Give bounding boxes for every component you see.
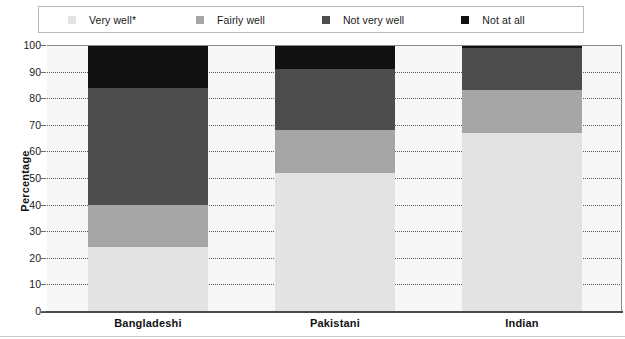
square-swatch-icon (196, 16, 204, 24)
y-tick-label: 10 (7, 278, 41, 290)
chart-container: 0102030405060708090100 Percentage Bangla… (0, 0, 625, 339)
legend-item[interactable]: Not at all (461, 7, 524, 32)
square-swatch-icon (68, 16, 76, 24)
bar-segment[interactable] (275, 45, 395, 69)
bar-segment[interactable] (462, 45, 582, 48)
y-tick-mark (41, 231, 46, 232)
legend-item[interactable]: Fairly well (196, 7, 265, 32)
chart-legend: Very well*Fairly wellNot very wellNot at… (38, 6, 584, 33)
x-axis-category-label: Indian (442, 317, 602, 329)
square-swatch-icon (461, 16, 469, 24)
y-tick-mark (41, 258, 46, 259)
x-axis-line (41, 311, 623, 313)
x-axis-category-label: Bangladeshi (68, 317, 228, 329)
legend-item-label: Not at all (482, 14, 524, 26)
y-tick-mark (41, 151, 46, 152)
y-tick-mark (41, 284, 46, 285)
y-tick-label: 100 (7, 39, 41, 51)
bar-segment[interactable] (275, 130, 395, 173)
y-tick-label: 0 (7, 305, 41, 317)
legend-item-label: Not very well (343, 14, 404, 26)
y-tick-label: 90 (7, 66, 41, 78)
bar-segment[interactable] (462, 48, 582, 91)
stacked-bar[interactable] (275, 45, 395, 311)
y-tick-label: 20 (7, 252, 41, 264)
stacked-bar[interactable] (88, 45, 208, 311)
bar-segment[interactable] (88, 205, 208, 248)
x-axis-category-label: Pakistani (255, 317, 415, 329)
bar-segment[interactable] (88, 88, 208, 205)
y-tick-mark (41, 98, 46, 99)
y-tick-mark (41, 178, 46, 179)
bar-segment[interactable] (88, 45, 208, 88)
y-axis-title: Percentage (19, 126, 31, 236)
legend-item[interactable]: Very well* (68, 7, 136, 32)
y-tick-label: 80 (7, 92, 41, 104)
bar-segment[interactable] (275, 173, 395, 311)
bar-segment[interactable] (88, 247, 208, 311)
square-swatch-icon (322, 16, 330, 24)
bar-segment[interactable] (275, 69, 395, 130)
legend-item-label: Fairly well (217, 14, 265, 26)
bottom-rule (0, 336, 625, 337)
y-tick-mark (41, 125, 46, 126)
y-tick-mark (41, 72, 46, 73)
stacked-bar[interactable] (462, 45, 582, 311)
y-tick-mark (41, 45, 46, 46)
y-tick-mark (41, 205, 46, 206)
legend-item[interactable]: Not very well (322, 7, 404, 32)
y-tick-mark (41, 311, 46, 312)
bar-segment[interactable] (462, 133, 582, 311)
bar-segment[interactable] (462, 90, 582, 133)
legend-item-label: Very well* (89, 14, 136, 26)
